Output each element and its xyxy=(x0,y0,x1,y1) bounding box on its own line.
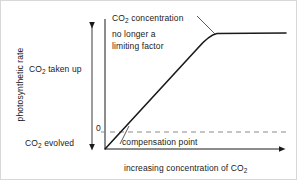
co2-evolved-rest: evolved xyxy=(42,138,74,148)
compensation-point-text: compensation point xyxy=(122,137,198,147)
co2-evolved-label: CO2 evolved xyxy=(25,138,74,151)
co2-taken-up-rest: taken up xyxy=(46,64,82,74)
annotation-line2: no longer a xyxy=(112,29,156,39)
y-axis-title: photosynthetic rate xyxy=(15,25,26,145)
zero-tick-text: 0 xyxy=(96,123,101,133)
co2-taken-up-label: CO2 taken up xyxy=(29,64,82,77)
co2-evolved-prefix: CO xyxy=(25,138,38,148)
zero-tick-label: 0 xyxy=(96,123,101,134)
photosynthesis-co2-graph-figure: photosynthetic rate CO2 taken up CO2 evo… xyxy=(0,0,297,180)
x-axis-title: increasing concentration of CO2 xyxy=(124,163,247,176)
limiting-factor-annotation: CO2 concentration no longer a limiting f… xyxy=(112,12,200,53)
annotation-line3: limiting factor xyxy=(112,41,164,51)
y-axis-title-text: photosynthetic rate xyxy=(15,48,25,122)
annotation-line1-rest: concentration xyxy=(129,13,184,23)
annotation-line1-prefix: CO xyxy=(112,13,125,23)
x-axis-title-subscript: 2 xyxy=(244,167,248,174)
compensation-point-label: compensation point xyxy=(122,137,198,148)
co2-taken-up-prefix: CO xyxy=(29,64,42,74)
x-axis-title-text: increasing concentration of CO xyxy=(124,163,244,173)
